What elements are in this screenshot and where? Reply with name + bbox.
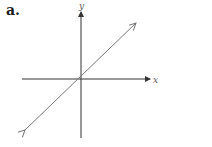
x-axis-label: x bbox=[153, 75, 158, 85]
coordinate-graph: x y bbox=[0, 0, 212, 147]
y-axis-label: y bbox=[78, 1, 85, 11]
